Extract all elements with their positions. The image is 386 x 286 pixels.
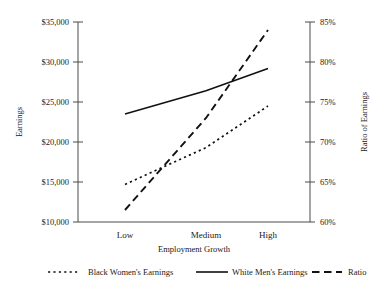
legend-item-black-womens-earnings[interactable]: Black Women's Earnings (48, 267, 173, 277)
series-line-ratio (125, 30, 268, 210)
axes-group (78, 22, 310, 222)
y-tick-label-right-0: 60% (320, 217, 336, 227)
legend-label-white-mens-earnings: White Men's Earnings (232, 267, 308, 277)
line-chart: $10,000 $15,000 $20,000 $25,000 $30,000 … (0, 0, 386, 286)
x-category-label-low: Low (117, 230, 134, 240)
x-category-label-high: High (259, 230, 278, 240)
series-line-black-womens-earnings (125, 106, 268, 184)
legend-label-ratio: Ratio (348, 267, 366, 277)
y-tick-label-left-4: $30,000 (41, 57, 69, 67)
y-tick-label-left-5: $35,000 (41, 17, 69, 27)
chart-container: $10,000 $15,000 $20,000 $25,000 $30,000 … (0, 0, 386, 286)
x-category-label-medium: Medium (191, 230, 222, 240)
y-tick-label-right-3: 75% (320, 97, 336, 107)
y-tick-label-right-1: 65% (320, 177, 336, 187)
y-tick-label-right-4: 80% (320, 57, 336, 67)
x-axis-category-labels: Low Medium High (117, 230, 278, 240)
y-tick-label-right-5: 85% (320, 17, 336, 27)
chart-legend: Black Women's Earnings White Men's Earni… (48, 267, 366, 277)
y-axis-right-title: Ratio of Earnings (359, 92, 369, 152)
series-line-white-mens-earnings (125, 68, 268, 114)
x-axis-title: Employment Growth (158, 244, 231, 254)
y-tick-label-left-0: $10,000 (41, 217, 69, 227)
legend-label-black-womens-earnings: Black Women's Earnings (88, 267, 173, 277)
y-tick-label-left-1: $15,000 (41, 177, 69, 187)
legend-item-white-mens-earnings[interactable]: White Men's Earnings (196, 267, 308, 277)
legend-item-ratio[interactable]: Ratio (312, 267, 366, 277)
data-series-group (125, 30, 268, 210)
y-tick-label-left-3: $25,000 (41, 97, 69, 107)
y-tick-label-right-2: 70% (320, 137, 336, 147)
y-tick-label-left-2: $20,000 (41, 137, 69, 147)
y-axis-left-ticks: $10,000 $15,000 $20,000 $25,000 $30,000 … (41, 17, 83, 227)
y-axis-left-title: Earnings (14, 107, 24, 137)
